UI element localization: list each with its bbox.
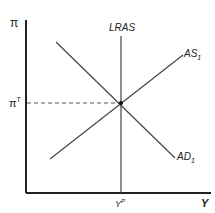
x-axis-label: Y [201, 197, 210, 209]
as1-label: AS1 [183, 48, 201, 61]
as1-curve [50, 55, 183, 159]
target-inflation-label: πT [9, 96, 22, 109]
ad-as-diagram: π πT LRAS AS1 AD1 YP Y [0, 0, 215, 213]
ad1-label: AD1 [176, 151, 195, 164]
diagram-canvas: π πT LRAS AS1 AD1 YP Y [0, 0, 215, 213]
lras-label: LRAS [109, 22, 135, 33]
y-axis-label: π [10, 16, 18, 30]
potential-output-label: YP [115, 198, 125, 209]
equilibrium-point [119, 101, 123, 105]
